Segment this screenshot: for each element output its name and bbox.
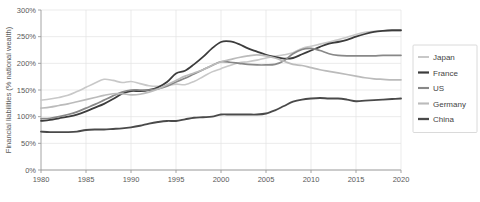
y-tick-label: 50% [21, 139, 36, 148]
y-tick-label: 0% [25, 166, 36, 175]
line-chart: 0%50%100%150%200%250%300% 19801985199019… [0, 0, 480, 202]
x-tick-label: 2000 [213, 175, 230, 184]
legend-label-us[interactable]: US [433, 84, 444, 93]
y-tick-label: 200% [17, 59, 37, 68]
legend-label-germany[interactable]: Germany [433, 100, 466, 109]
x-tick-label: 2010 [303, 175, 320, 184]
x-tick-label: 1985 [78, 175, 95, 184]
gridlines [41, 10, 401, 170]
x-tick-label: 1995 [168, 175, 185, 184]
x-tick-label: 2020 [393, 175, 410, 184]
x-tick-label: 2005 [258, 175, 275, 184]
y-tick-label: 250% [17, 32, 37, 41]
y-tick-label: 150% [17, 86, 37, 95]
y-axis-ticks: 0%50%100%150%200%250%300% [17, 6, 41, 175]
chart-container: 0%50%100%150%200%250%300% 19801985199019… [0, 0, 480, 202]
chart-legend: JapanFranceUSGermanyChina [413, 45, 477, 133]
y-tick-label: 100% [17, 112, 37, 121]
x-tick-label: 1990 [123, 175, 140, 184]
legend-label-france[interactable]: France [433, 69, 458, 78]
x-tick-label: 2015 [348, 175, 365, 184]
legend-label-japan[interactable]: Japan [433, 53, 455, 62]
x-axis-ticks: 198019851990199520002005201020152020 [33, 170, 410, 184]
x-tick-label: 1980 [33, 175, 50, 184]
y-tick-label: 300% [17, 6, 37, 15]
y-axis-title: Financial liabilities (% national wealth… [4, 26, 13, 153]
legend-label-china[interactable]: China [433, 115, 454, 124]
